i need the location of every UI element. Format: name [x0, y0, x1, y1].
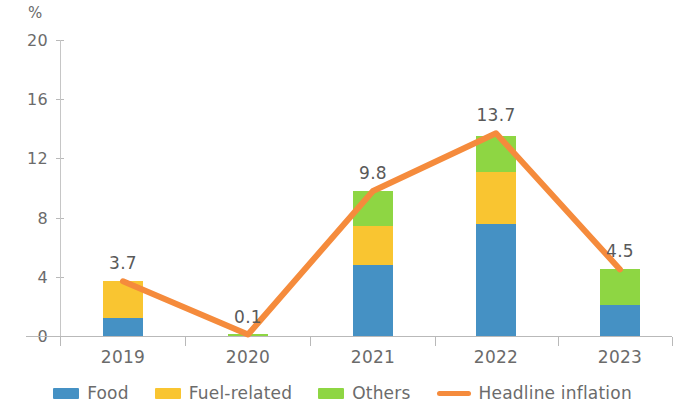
chart-legend: FoodFuel-relatedOthersHeadline inflation [0, 383, 685, 403]
legend-label: Fuel-related [189, 383, 292, 403]
data-point-label: 0.1 [234, 307, 262, 327]
legend-swatch-icon [318, 388, 344, 399]
x-axis-tick-label: 2023 [598, 347, 642, 367]
x-axis-tick-mark [310, 337, 311, 346]
y-axis-line [60, 40, 61, 337]
bar-segment[interactable] [103, 281, 143, 318]
bar-segment[interactable] [353, 265, 393, 336]
legend-line-icon [437, 391, 471, 396]
y-axis-tick-label: 8 [14, 208, 48, 227]
x-axis-tick-mark [185, 337, 186, 346]
inflation-stacked-bar-chart: % 048121620 20192020202120222023 3.70.19… [0, 0, 685, 413]
data-point-label: 3.7 [109, 253, 137, 273]
data-point-label: 4.5 [606, 241, 634, 261]
x-axis-tick-mark [435, 337, 436, 346]
data-point-label: 13.7 [476, 105, 515, 125]
y-axis-tick-label: 16 [14, 90, 48, 109]
bar-segment[interactable] [353, 191, 393, 227]
legend-label: Headline inflation [479, 383, 632, 403]
x-axis-tick-mark [60, 337, 61, 346]
legend-item[interactable]: Fuel-related [155, 383, 292, 403]
x-axis-tick-label: 2020 [226, 347, 270, 367]
legend-item[interactable]: Food [53, 383, 129, 403]
x-axis-tick-label: 2019 [101, 347, 145, 367]
x-axis-tick-label: 2022 [474, 347, 518, 367]
bar-segment[interactable] [476, 224, 516, 336]
bar-segment[interactable] [103, 318, 143, 336]
bar-segment[interactable] [476, 172, 516, 224]
y-axis-tick-label: 20 [14, 31, 48, 50]
x-axis-line [26, 336, 672, 337]
bar-segment[interactable] [600, 305, 640, 336]
y-axis-tick-label: 12 [14, 149, 48, 168]
legend-item[interactable]: Headline inflation [437, 383, 632, 403]
bar-segment[interactable] [353, 226, 393, 264]
legend-item[interactable]: Others [318, 383, 410, 403]
bar-segment[interactable] [476, 136, 516, 172]
bar-segment[interactable] [228, 334, 268, 336]
x-axis-tick-label: 2021 [351, 347, 395, 367]
x-axis-tick-mark [558, 337, 559, 346]
legend-swatch-icon [155, 388, 181, 399]
bar-segment[interactable] [600, 269, 640, 305]
legend-label: Others [352, 383, 410, 403]
y-axis-tick-label: 4 [14, 267, 48, 286]
y-axis-unit-label: % [28, 4, 42, 22]
legend-label: Food [87, 383, 129, 403]
legend-swatch-icon [53, 388, 79, 399]
x-axis-tick-mark [672, 337, 673, 346]
data-point-label: 9.8 [359, 163, 387, 183]
